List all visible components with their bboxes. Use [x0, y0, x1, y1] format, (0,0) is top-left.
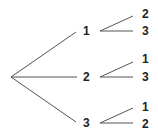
node-2-3: 3 — [142, 70, 149, 84]
tree-diagram: 1 2 3 2 3 1 3 1 2 — [0, 0, 158, 138]
node-3: 3 — [83, 116, 90, 130]
edge-2-1 — [100, 62, 133, 77]
tree-svg: 1 2 3 2 3 1 3 1 2 — [0, 0, 158, 138]
node-1-3: 3 — [142, 24, 149, 38]
node-3-1: 1 — [142, 100, 149, 114]
edge-root-3 — [11, 77, 76, 122]
node-3-2: 2 — [142, 117, 149, 131]
node-1: 1 — [83, 24, 90, 38]
node-2: 2 — [83, 70, 90, 84]
edge-root-1 — [11, 32, 76, 77]
edge-1-2 — [100, 16, 133, 31]
edge-3-1 — [100, 108, 133, 123]
node-1-2: 2 — [142, 7, 149, 21]
node-2-1: 1 — [142, 52, 149, 66]
